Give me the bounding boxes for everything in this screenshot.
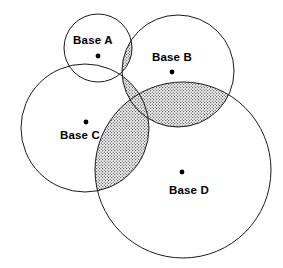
base-b-center-dot [170,70,175,75]
base-d-center-dot [180,170,185,175]
base-c-label: Base C [60,129,100,141]
base-c-center-dot [84,120,89,125]
base-coverage-diagram: Base A Base B Base C Base D [0,0,283,268]
base-d-label: Base D [169,184,209,196]
base-a-label: Base A [73,34,113,46]
base-a-center-dot [96,54,101,59]
shaded-overlap-regions [21,15,271,258]
base-b-label: Base B [152,51,192,63]
venn-diagram-svg: Base A Base B Base C Base D [0,0,283,268]
